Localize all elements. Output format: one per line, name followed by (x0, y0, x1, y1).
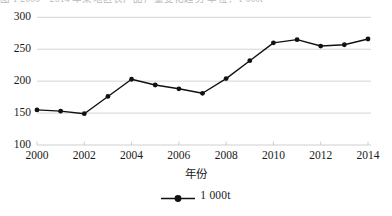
x-axis-tick-label-2010: 2010 (250, 150, 296, 162)
data-point (318, 44, 323, 49)
x-axis-tick-label-2014: 2014 (345, 150, 391, 162)
data-point (82, 111, 87, 116)
data-point (58, 109, 63, 114)
gridlines (37, 17, 371, 145)
data-point (129, 77, 134, 82)
y-axis-tick-label-150: 150 (1, 107, 31, 119)
chart-legend: 1 000t (0, 190, 392, 202)
data-point (247, 58, 252, 63)
data-point (366, 37, 371, 42)
data-point (153, 83, 158, 88)
x-axis-title: 年份 (0, 168, 392, 180)
legend-marker-icon (161, 190, 195, 201)
chart-plot-area (0, 0, 392, 216)
x-axis-tick-label-2002: 2002 (61, 150, 107, 162)
y-axis-tick-label-300: 300 (1, 11, 31, 23)
data-point (176, 86, 181, 91)
data-point (200, 91, 205, 96)
x-axis-tick-label-2008: 2008 (203, 150, 249, 162)
data-point (295, 37, 300, 42)
data-point (224, 76, 229, 81)
line-chart: 100150200250300 200020022004200620082010… (0, 0, 392, 216)
x-axis-tick-label-2012: 2012 (298, 150, 344, 162)
x-axis-tick-marks (37, 142, 368, 146)
series-markers-1000t (35, 37, 371, 117)
series-line-1000t (37, 39, 368, 114)
data-point (342, 42, 347, 47)
data-point (35, 107, 40, 112)
data-point (106, 94, 111, 99)
x-axis-tick-label-2004: 2004 (109, 150, 155, 162)
x-axis-tick-label-2000: 2000 (14, 150, 60, 162)
legend-label-1000t: 1 000t (200, 190, 230, 202)
y-axis-tick-label-250: 250 (1, 43, 31, 55)
x-axis-tick-label-2006: 2006 (156, 150, 202, 162)
data-point (271, 40, 276, 45)
y-axis-tick-label-200: 200 (1, 75, 31, 87)
